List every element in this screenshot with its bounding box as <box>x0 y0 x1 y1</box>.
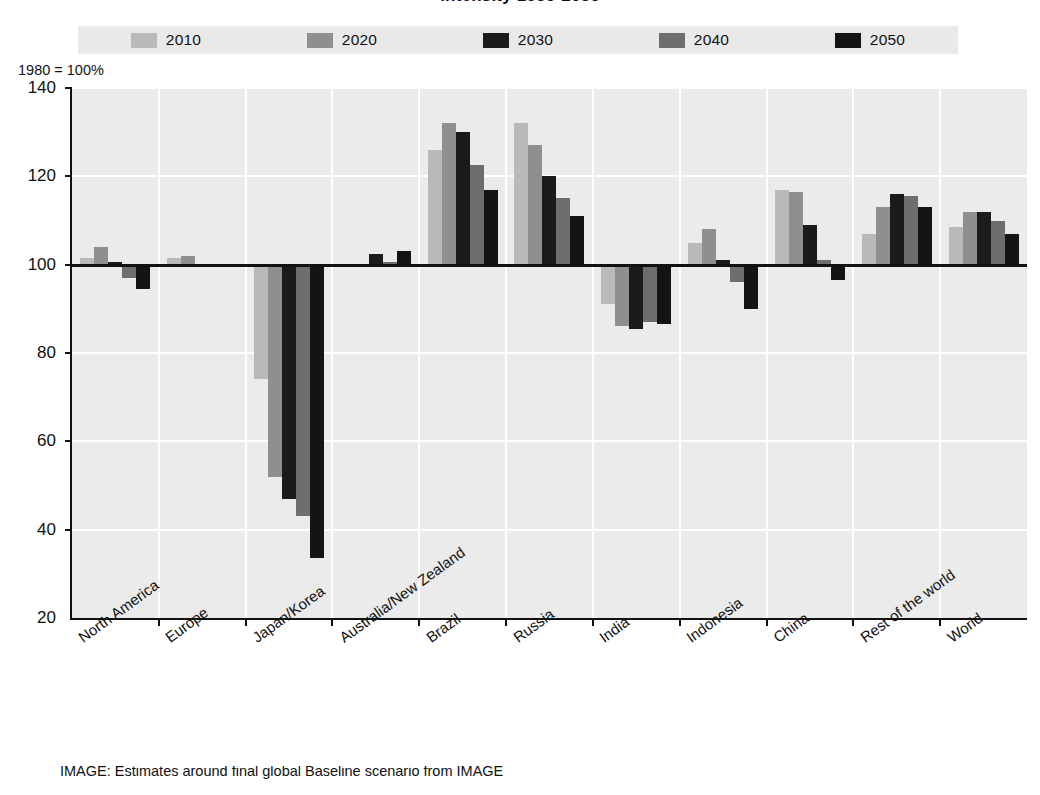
bar-group <box>419 88 506 618</box>
plot-area <box>70 88 1027 620</box>
bar <box>542 176 556 264</box>
bar <box>428 150 442 265</box>
bar <box>442 123 456 264</box>
bar <box>949 227 963 265</box>
bar <box>688 243 702 265</box>
bar-group <box>332 88 419 618</box>
bar-group <box>506 88 593 618</box>
bar <box>570 216 584 265</box>
y-axis-tick-label: 80 <box>8 343 56 363</box>
bar <box>296 265 310 517</box>
y-tick-mark <box>65 175 72 177</box>
bar <box>528 145 542 264</box>
bar <box>456 132 470 265</box>
bar <box>702 229 716 264</box>
bar-group <box>940 88 1027 618</box>
bar-group <box>72 88 159 618</box>
bar <box>904 196 918 264</box>
bar-group <box>246 88 333 618</box>
x-tick-mark <box>852 619 854 626</box>
bar <box>615 265 629 327</box>
y-axis-tick-label: 40 <box>8 520 56 540</box>
bar <box>94 247 108 265</box>
bar <box>918 207 932 264</box>
y-axis-tick-label: 20 <box>8 608 56 628</box>
y-tick-mark <box>65 352 72 354</box>
bar <box>789 192 803 265</box>
bar <box>254 265 268 380</box>
bar <box>310 265 324 559</box>
figure-caption: IMAGE: Estimates around final global Bas… <box>60 766 1020 794</box>
x-tick-mark <box>418 619 420 626</box>
y-axis-tick-label: 100 <box>8 255 56 275</box>
bar-group <box>680 88 767 618</box>
plot-wrapper: 20406080100120140North AmericaEuropeJapa… <box>0 0 1040 795</box>
bar-group <box>593 88 680 618</box>
y-tick-mark <box>65 440 72 442</box>
bar <box>629 265 643 329</box>
y-tick-mark <box>65 87 72 89</box>
y-axis-tick-label: 60 <box>8 431 56 451</box>
x-tick-mark <box>939 619 941 626</box>
bar <box>963 212 977 265</box>
x-tick-mark <box>331 619 333 626</box>
y-axis-tick-label: 140 <box>8 78 56 98</box>
x-tick-mark <box>766 619 768 626</box>
bar <box>268 265 282 477</box>
bar-group <box>767 88 854 618</box>
y-tick-mark <box>65 264 72 266</box>
bar <box>890 194 904 265</box>
bar <box>744 265 758 309</box>
x-tick-mark <box>245 619 247 626</box>
bar <box>775 190 789 265</box>
bar <box>862 234 876 265</box>
y-tick-mark <box>65 529 72 531</box>
x-tick-mark <box>158 619 160 626</box>
bar <box>876 207 890 264</box>
bar <box>1005 234 1019 265</box>
bar <box>470 165 484 264</box>
bar <box>556 198 570 264</box>
bar <box>484 190 498 265</box>
bar <box>803 225 817 265</box>
baseline-100 <box>72 264 1027 267</box>
bar <box>643 265 657 322</box>
bar <box>730 265 744 283</box>
bar <box>657 265 671 325</box>
bar <box>282 265 296 499</box>
bar <box>991 221 1005 265</box>
bar <box>601 265 615 305</box>
bar <box>831 265 845 280</box>
y-axis-tick-label: 120 <box>8 166 56 186</box>
bar-group <box>159 88 246 618</box>
x-tick-mark <box>592 619 594 626</box>
bar <box>977 212 991 265</box>
bar <box>397 251 411 264</box>
x-tick-mark <box>505 619 507 626</box>
bar <box>514 123 528 264</box>
bar <box>136 265 150 289</box>
bar-group <box>853 88 940 618</box>
x-tick-mark <box>679 619 681 626</box>
